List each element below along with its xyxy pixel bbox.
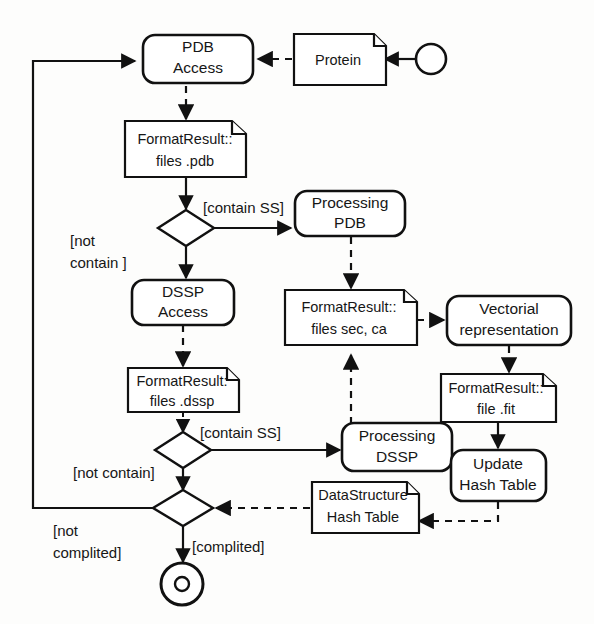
artifact-format-result-secca[interactable]: FormatResult:: files sec, ca [285,290,417,345]
artifact-datastructure-line1: DataStructure [318,487,407,503]
action-processing-pdb[interactable]: Processing PDB [295,191,405,236]
guard-not-contain-top-line2: contain ] [70,254,127,271]
artifact-format-result-pdb[interactable]: FormatResult:: files .pdb [125,121,246,177]
initial-node[interactable] [416,44,446,74]
action-processing-dssp-line2: DSSP [376,448,418,465]
artifact-format-result-pdb-line2: files .pdb [156,153,214,169]
artifact-format-result-dssp[interactable]: FormatResult: files .dssp [128,368,239,412]
action-processing-dssp[interactable]: Processing DSSP [342,423,452,471]
artifact-format-result-fit-line2: file .fit [477,401,515,417]
guard-not-complited-line1: [not [53,522,79,539]
artifact-format-result-fit-line1: FormatResult:: [448,380,543,396]
merge-node[interactable] [153,490,213,526]
action-pdb-access[interactable]: PDB Access [143,35,253,83]
artifact-format-result-dssp-line2: files .dssp [150,393,214,409]
action-pdb-access-line2: Access [173,59,223,76]
action-processing-pdb-line2: PDB [334,214,366,231]
artifact-protein[interactable]: Protein [294,34,386,85]
guard-contain-ss-bottom: [contain SS] [200,424,281,441]
action-vectorial-line2: representation [459,321,558,338]
action-pdb-access-line1: PDB [182,38,214,55]
action-update-hash-line1: Update [473,455,523,472]
action-update-hash-line2: Hash Table [459,476,536,493]
guard-contain-ss-top: [contain SS] [203,199,284,216]
artifact-format-result-secca-line2: files sec, ca [311,321,388,337]
action-processing-pdb-line1: Processing [312,194,389,211]
action-dssp-access-line1: DSSP [162,283,204,300]
artifact-format-result-dssp-line1: FormatResult: [136,373,227,389]
action-dssp-access[interactable]: DSSP Access [132,280,234,325]
action-vectorial-representation[interactable]: Vectorial representation [447,296,571,345]
artifact-format-result-fit[interactable]: FormatResult:: file .fit [441,374,556,422]
artifact-format-result-pdb-line1: FormatResult:: [137,131,232,147]
action-vectorial-line1: Vectorial [479,300,538,317]
action-dssp-access-line2: Access [158,303,208,320]
guard-not-complited-line2: complited] [53,544,121,561]
action-processing-dssp-line1: Processing [359,427,436,444]
activity-diagram: PDB Access --> FormatResult files .pdb -… [0,0,594,624]
artifact-protein-label: Protein [315,52,361,68]
guard-complited: [complited] [192,538,265,555]
artifact-datastructure-hash-table[interactable]: DataStructure Hash Table [312,482,419,533]
final-node[interactable] [161,563,203,605]
edge-update-hash-to-datastructure [419,502,498,521]
activity-diagram-canvas: PDB Access --> FormatResult files .pdb -… [0,0,594,624]
guard-not-contain-bottom: [not contain] [73,464,155,481]
guard-not-contain-top-line1: [not [70,232,96,249]
action-update-hash-table[interactable]: Update Hash Table [451,450,546,501]
artifact-format-result-secca-line1: FormatResult:: [301,299,396,315]
artifact-datastructure-line2: Hash Table [327,509,399,525]
